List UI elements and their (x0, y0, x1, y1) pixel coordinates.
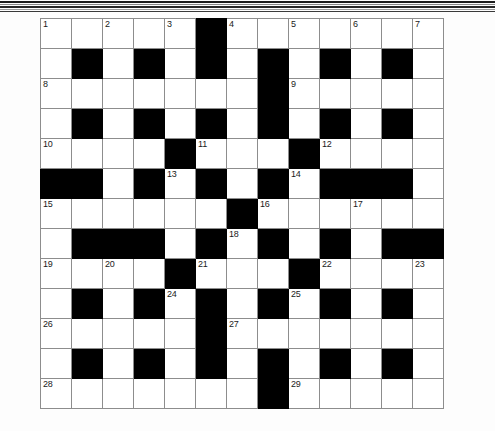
crossword-cell[interactable] (134, 379, 165, 409)
crossword-cell[interactable] (72, 199, 103, 229)
crossword-cell[interactable] (227, 109, 258, 139)
crossword-cell[interactable] (103, 319, 134, 349)
crossword-grid[interactable]: 1234567891011121314151617181920212223242… (40, 18, 444, 409)
crossword-cell[interactable]: 11 (196, 139, 227, 169)
crossword-cell[interactable]: 3 (165, 19, 196, 49)
crossword-cell[interactable] (382, 379, 413, 409)
crossword-cell[interactable] (41, 289, 72, 319)
crossword-cell[interactable]: 27 (227, 319, 258, 349)
crossword-cell[interactable] (258, 139, 289, 169)
crossword-cell[interactable] (41, 229, 72, 259)
crossword-cell[interactable]: 9 (289, 79, 320, 109)
crossword-cell[interactable] (196, 199, 227, 229)
crossword-cell[interactable] (72, 379, 103, 409)
crossword-cell[interactable] (227, 49, 258, 79)
crossword-cell[interactable] (258, 259, 289, 289)
crossword-cell[interactable] (351, 109, 382, 139)
crossword-cell[interactable]: 2 (103, 19, 134, 49)
crossword-cell[interactable] (165, 79, 196, 109)
crossword-cell[interactable] (41, 349, 72, 379)
crossword-cell[interactable] (227, 349, 258, 379)
crossword-cell[interactable] (351, 319, 382, 349)
crossword-cell[interactable] (351, 229, 382, 259)
crossword-cell[interactable] (320, 79, 351, 109)
crossword-cell[interactable] (41, 109, 72, 139)
crossword-cell[interactable] (134, 319, 165, 349)
crossword-cell[interactable] (103, 379, 134, 409)
crossword-cell[interactable]: 4 (227, 19, 258, 49)
crossword-cell[interactable] (413, 49, 444, 79)
crossword-cell[interactable] (258, 19, 289, 49)
crossword-cell[interactable] (289, 109, 320, 139)
crossword-cell[interactable] (320, 379, 351, 409)
crossword-cell[interactable]: 12 (320, 139, 351, 169)
crossword-cell[interactable]: 21 (196, 259, 227, 289)
crossword-cell[interactable] (413, 139, 444, 169)
crossword-cell[interactable] (382, 199, 413, 229)
crossword-cell[interactable] (351, 79, 382, 109)
crossword-cell[interactable]: 1 (41, 19, 72, 49)
crossword-cell[interactable] (72, 19, 103, 49)
crossword-cell[interactable] (103, 169, 134, 199)
crossword-cell[interactable] (134, 139, 165, 169)
crossword-cell[interactable]: 6 (351, 19, 382, 49)
crossword-cell[interactable] (320, 319, 351, 349)
crossword-cell[interactable] (351, 49, 382, 79)
crossword-cell[interactable] (289, 349, 320, 379)
crossword-cell[interactable]: 10 (41, 139, 72, 169)
crossword-cell[interactable] (320, 199, 351, 229)
crossword-cell[interactable] (227, 79, 258, 109)
crossword-cell[interactable] (72, 139, 103, 169)
crossword-cell[interactable] (413, 169, 444, 199)
crossword-cell[interactable] (103, 109, 134, 139)
crossword-cell[interactable] (351, 289, 382, 319)
crossword-cell[interactable] (165, 199, 196, 229)
crossword-cell[interactable] (289, 49, 320, 79)
crossword-cell[interactable]: 14 (289, 169, 320, 199)
crossword-cell[interactable] (227, 259, 258, 289)
crossword-cell[interactable] (196, 379, 227, 409)
crossword-cell[interactable] (196, 79, 227, 109)
crossword-cell[interactable] (351, 349, 382, 379)
crossword-cell[interactable] (165, 349, 196, 379)
crossword-cell[interactable] (413, 349, 444, 379)
crossword-cell[interactable] (165, 229, 196, 259)
crossword-cell[interactable]: 17 (351, 199, 382, 229)
crossword-cell[interactable] (165, 319, 196, 349)
crossword-cell[interactable]: 24 (165, 289, 196, 319)
crossword-cell[interactable] (103, 49, 134, 79)
crossword-cell[interactable] (134, 79, 165, 109)
crossword-cell[interactable] (134, 19, 165, 49)
crossword-cell[interactable] (134, 259, 165, 289)
crossword-cell[interactable] (289, 229, 320, 259)
crossword-cell[interactable] (227, 139, 258, 169)
crossword-cell[interactable]: 29 (289, 379, 320, 409)
crossword-cell[interactable] (289, 319, 320, 349)
crossword-cell[interactable] (382, 319, 413, 349)
crossword-cell[interactable] (351, 139, 382, 169)
crossword-cell[interactable] (413, 319, 444, 349)
crossword-cell[interactable] (289, 199, 320, 229)
crossword-cell[interactable]: 26 (41, 319, 72, 349)
crossword-cell[interactable] (227, 289, 258, 319)
crossword-cell[interactable] (320, 19, 351, 49)
crossword-cell[interactable] (413, 379, 444, 409)
crossword-cell[interactable] (41, 49, 72, 79)
crossword-cell[interactable]: 22 (320, 259, 351, 289)
crossword-cell[interactable]: 25 (289, 289, 320, 319)
crossword-cell[interactable]: 13 (165, 169, 196, 199)
crossword-cell[interactable] (103, 349, 134, 379)
crossword-cell[interactable] (413, 199, 444, 229)
crossword-cell[interactable]: 23 (413, 259, 444, 289)
crossword-cell[interactable] (72, 79, 103, 109)
crossword-cell[interactable]: 7 (413, 19, 444, 49)
crossword-cell[interactable] (382, 259, 413, 289)
crossword-cell[interactable] (103, 79, 134, 109)
crossword-cell[interactable] (165, 379, 196, 409)
crossword-cell[interactable] (72, 319, 103, 349)
crossword-cell[interactable] (382, 19, 413, 49)
crossword-cell[interactable]: 15 (41, 199, 72, 229)
crossword-cell[interactable]: 5 (289, 19, 320, 49)
crossword-cell[interactable] (351, 379, 382, 409)
crossword-cell[interactable]: 20 (103, 259, 134, 289)
